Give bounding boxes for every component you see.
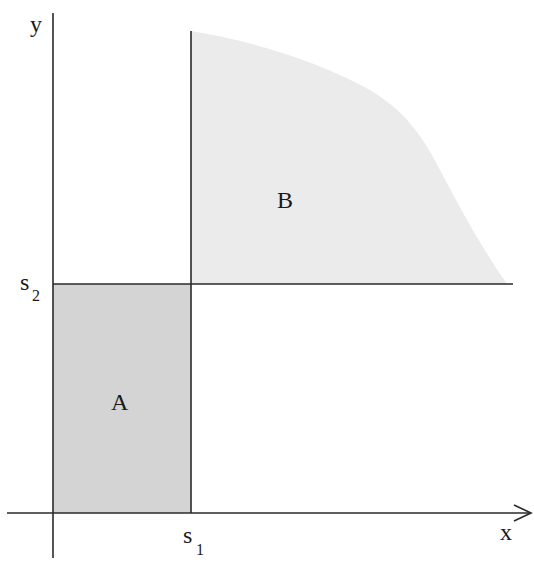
s1-label: s — [183, 522, 192, 548]
region-diagram: y x s 2 s 1 A B — [0, 0, 534, 563]
x-axis-label: x — [500, 519, 512, 545]
region-a-label: A — [111, 389, 129, 415]
s1-label-subscript: 1 — [196, 541, 204, 558]
s2-label: s — [20, 269, 29, 295]
region-b-fill — [191, 31, 507, 284]
region-b-label: B — [277, 187, 293, 213]
s2-label-subscript: 2 — [32, 287, 40, 304]
y-axis-label: y — [30, 11, 42, 37]
